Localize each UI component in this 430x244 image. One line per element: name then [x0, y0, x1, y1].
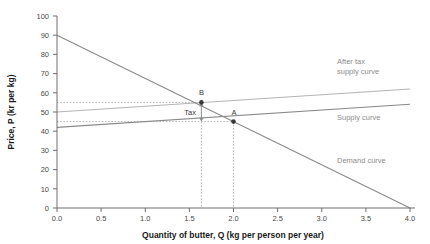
y-tick-label-40: 40 — [41, 127, 49, 136]
after-tax-supply-curve-label-line1: After tax — [337, 57, 365, 66]
y-tick-label-30: 30 — [41, 146, 49, 155]
y-tick-label-60: 60 — [41, 89, 49, 98]
y-tick-label-0: 0 — [45, 204, 49, 213]
y-axis-tick-labels: 0 10 20 30 40 50 60 70 80 90 100 — [36, 12, 49, 213]
x-tick-label-2-0: 2.0 — [228, 214, 238, 223]
after-tax-supply-curve-label-line2: supply curve — [337, 67, 379, 76]
y-tick-label-20: 20 — [41, 165, 49, 174]
supply-curve-label: Supply curve — [337, 113, 380, 122]
y-tick-label-10: 10 — [41, 185, 49, 194]
y-tick-label-50: 50 — [41, 108, 49, 117]
x-tick-label-3-5: 3.5 — [361, 214, 371, 223]
equilibrium-points: B A — [199, 88, 237, 124]
x-axis-title: Quantity of butter, Q (kg per person per… — [142, 230, 324, 240]
x-tick-label-2-5: 2.5 — [272, 214, 282, 223]
point-b-marker — [199, 100, 204, 105]
x-tick-label-0-5: 0.5 — [96, 214, 106, 223]
x-axis-tick-labels: 0.0 0.5 1.0 1.5 2.0 2.5 3.0 3.5 4.0 — [52, 214, 415, 223]
demand-curve-label: Demand curve — [337, 156, 386, 165]
x-tick-label-4-0: 4.0 — [405, 214, 415, 223]
x-axis-ticks — [57, 208, 410, 212]
x-tick-label-1-5: 1.5 — [184, 214, 194, 223]
point-b-label: B — [199, 88, 204, 97]
x-tick-label-0-0: 0.0 — [52, 214, 62, 223]
supply-demand-chart: 0 10 20 30 40 50 60 70 80 90 100 0.0 0 — [0, 0, 430, 244]
y-tick-label-100: 100 — [36, 12, 49, 21]
x-tick-label-1-0: 1.0 — [140, 214, 150, 223]
y-tick-label-80: 80 — [41, 50, 49, 59]
guide-lines — [57, 102, 234, 208]
point-a-label: A — [231, 108, 236, 117]
y-tick-label-90: 90 — [41, 31, 49, 40]
y-axis-ticks — [53, 16, 57, 208]
tax-arrow-head-down — [199, 118, 203, 122]
y-axis-title: Price, P (kr per kg) — [6, 74, 16, 149]
tax-label: Tax — [184, 108, 196, 117]
x-tick-label-3-0: 3.0 — [317, 214, 327, 223]
chart-svg: 0 10 20 30 40 50 60 70 80 90 100 0.0 0 — [0, 0, 430, 244]
y-tick-label-70: 70 — [41, 69, 49, 78]
point-a-marker — [231, 119, 236, 124]
